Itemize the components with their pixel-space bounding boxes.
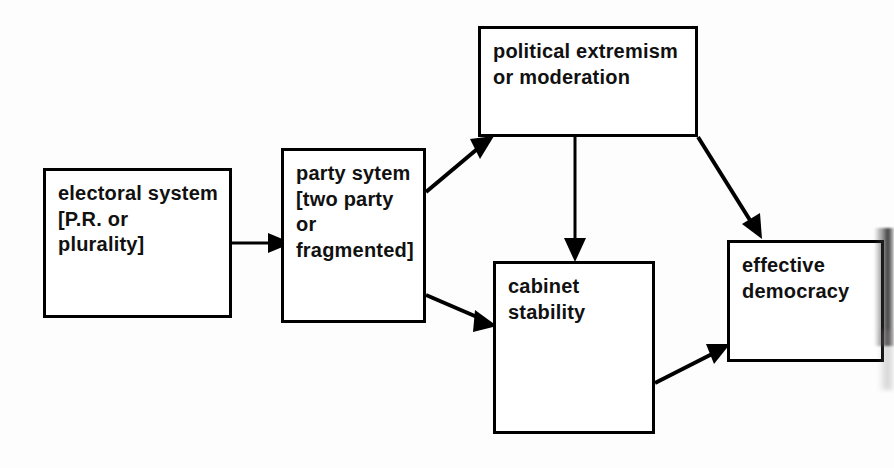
- edge-extremism-to-democracy: [698, 137, 762, 239]
- edge-extremism-to-cabinet: [564, 137, 586, 262]
- node-cabinet-stability-label: cabinet stability: [508, 274, 642, 325]
- edge-cabinet-to-democracy: [655, 344, 730, 383]
- node-effective-democracy[interactable]: effective democracy: [727, 240, 884, 362]
- edge-party-to-cabinet: [426, 295, 497, 332]
- node-political-extremism[interactable]: political extremism or moderation: [478, 26, 698, 137]
- node-party-system-label: party sytem [two party or fragmented]: [296, 161, 413, 263]
- diagram-canvas: electoral system [P.R. or plurality] par…: [0, 0, 894, 468]
- node-electoral-system[interactable]: electoral system [P.R. or plurality]: [43, 168, 232, 318]
- node-effective-democracy-label: effective democracy: [742, 253, 871, 304]
- node-cabinet-stability[interactable]: cabinet stability: [493, 261, 655, 434]
- scan-artifact-smudge: [874, 228, 894, 346]
- scan-artifact-smudge-lower: [878, 330, 894, 390]
- node-party-system[interactable]: party sytem [two party or fragmented]: [281, 148, 426, 323]
- node-electoral-system-label: electoral system [P.R. or plurality]: [58, 181, 219, 258]
- node-political-extremism-label: political extremism or moderation: [493, 39, 685, 90]
- edge-party-to-extremism: [426, 136, 494, 192]
